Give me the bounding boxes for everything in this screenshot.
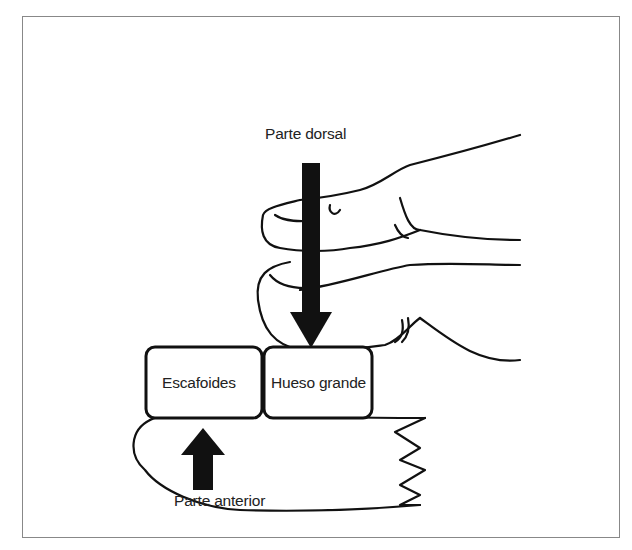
hand-wrist-illustration [0,0,632,550]
finger-lower [258,262,420,351]
label-scaphoid: Escafoides [162,374,236,392]
label-dorsal: Parte dorsal [265,125,346,143]
forearm-cut [395,418,425,505]
arrow-down-icon [290,163,332,348]
arrow-up-icon [181,428,225,490]
hand-outline-top [300,135,520,200]
label-capitate: Hueso grande [271,374,366,392]
label-anterior: Parte anterior [174,492,265,510]
